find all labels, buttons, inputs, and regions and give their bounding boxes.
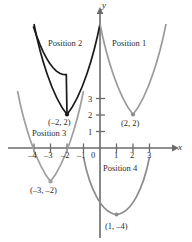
annotation-position-4: Position 4 [103, 163, 137, 173]
x-tick-label-2: 2 [130, 150, 134, 160]
x-tick-label-1: 1 [114, 150, 118, 160]
coordinate-plot [0, 0, 192, 242]
x-tick-label--1: –1 [77, 150, 86, 160]
x-tick-label-0: 0 [91, 150, 95, 160]
x-axis-label: x [178, 142, 182, 152]
parabola-positions-figure: x y –4 –3 –2 –1 0 1 2 3 1 2 3 Position 2… [0, 0, 192, 242]
vertex-dot-pos3 [48, 179, 52, 183]
annotation-position-1: Position 1 [112, 38, 146, 48]
annotation-position-3: Position 3 [32, 128, 66, 138]
y-tick-label-3: 3 [88, 94, 92, 104]
vertex-label-pos3: (–3, –2) [30, 185, 57, 195]
y-tick-label-2: 2 [88, 110, 92, 120]
vertex-label-pos1: (2, 2) [121, 118, 139, 128]
y-axis-label: y [102, 0, 106, 10]
vertex-dot-pos1 [131, 112, 135, 116]
x-tick-label--2: –2 [61, 150, 70, 160]
vertex-dot-pos2 [65, 112, 69, 116]
x-tick-label--3: –3 [44, 150, 53, 160]
vertex-label-pos2: (–2, 2) [48, 117, 71, 127]
vertex-label-pos4: (1, –4) [105, 221, 128, 231]
vertex-dot-pos4 [114, 212, 118, 216]
x-tick-label-3: 3 [147, 150, 151, 160]
x-tick-label--4: –4 [28, 150, 37, 160]
y-tick-label-1: 1 [88, 127, 92, 137]
annotation-position-2: Position 2 [48, 38, 82, 48]
